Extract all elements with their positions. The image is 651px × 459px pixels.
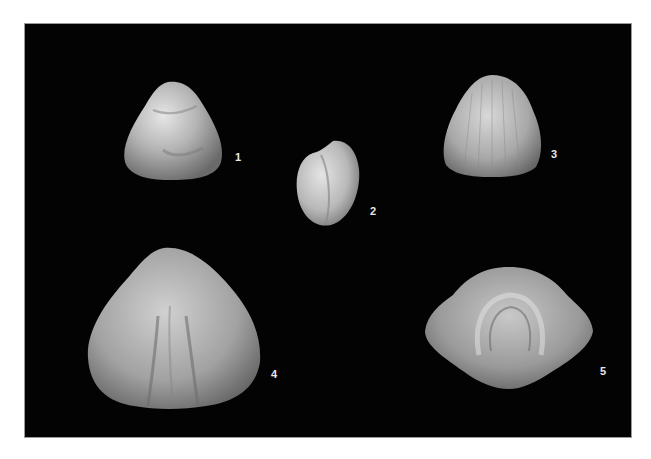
specimen-2-label: 2 [370, 205, 376, 217]
photo-plate: 1 2 3 [24, 23, 632, 438]
specimen-5-label: 5 [600, 365, 606, 377]
specimen-2-image [295, 139, 361, 227]
specimen-4-image [86, 246, 264, 412]
specimen-5-image [423, 265, 595, 391]
specimen-1-image [123, 80, 225, 184]
specimen-4-label: 4 [271, 368, 277, 380]
specimen-3-label: 3 [551, 148, 557, 160]
specimen-3-image [442, 73, 546, 178]
specimen-1-label: 1 [235, 151, 241, 163]
